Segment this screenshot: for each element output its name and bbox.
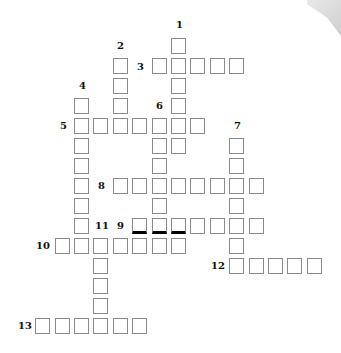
crossword-cell[interactable] — [74, 318, 89, 334]
crossword-cell[interactable] — [93, 258, 108, 274]
clue-number-10: 10 — [36, 241, 50, 251]
crossword-cell[interactable] — [55, 318, 70, 334]
crossword-cell[interactable] — [113, 58, 128, 74]
crossword-cell[interactable] — [229, 138, 244, 154]
crossword-cell[interactable] — [152, 198, 167, 214]
crossword-cell[interactable] — [210, 58, 225, 74]
crossword-cell[interactable] — [93, 298, 108, 314]
clue-number-7: 7 — [234, 121, 241, 131]
crossword-cell[interactable] — [229, 58, 244, 74]
crossword-cell[interactable] — [171, 218, 186, 234]
clue-number-3: 3 — [137, 62, 144, 72]
crossword-cell[interactable] — [74, 138, 89, 154]
crossword-cell[interactable] — [210, 178, 225, 194]
crossword-cell[interactable] — [229, 198, 244, 214]
crossword-cell[interactable] — [74, 98, 89, 114]
crossword-cell[interactable] — [229, 238, 244, 254]
crossword-cell[interactable] — [132, 318, 147, 334]
crossword-cell[interactable] — [152, 218, 167, 234]
crossword-cell[interactable] — [74, 238, 89, 254]
clue-number-6: 6 — [156, 101, 163, 111]
crossword-cell[interactable] — [152, 58, 167, 74]
crossword-cell[interactable] — [113, 178, 128, 194]
crossword-cell[interactable] — [210, 218, 225, 234]
crossword-cell[interactable] — [171, 38, 186, 54]
clue-number-12: 12 — [211, 261, 225, 271]
crossword-cell[interactable] — [35, 318, 50, 334]
clue-number-5: 5 — [60, 121, 67, 131]
clue-number-2: 2 — [117, 41, 124, 51]
crossword-cell[interactable] — [171, 118, 186, 134]
crossword-cell[interactable] — [190, 118, 205, 134]
crossword-cell[interactable] — [190, 218, 205, 234]
clue-number-11: 11 — [95, 221, 109, 231]
crossword-cell[interactable] — [307, 258, 322, 274]
crossword-grid: 12345678910111213 — [0, 0, 341, 353]
crossword-cell[interactable] — [93, 318, 108, 334]
crossword-cell[interactable] — [74, 198, 89, 214]
crossword-cell[interactable] — [93, 278, 108, 294]
clue-number-4: 4 — [79, 81, 86, 91]
crossword-cell[interactable] — [229, 258, 244, 274]
crossword-cell[interactable] — [268, 258, 283, 274]
crossword-cell[interactable] — [113, 238, 128, 254]
crossword-cell[interactable] — [74, 158, 89, 174]
crossword-cell[interactable] — [229, 178, 244, 194]
crossword-cell[interactable] — [171, 138, 186, 154]
crossword-cell[interactable] — [55, 238, 70, 254]
crossword-cell[interactable] — [249, 218, 264, 234]
crossword-cell[interactable] — [249, 258, 264, 274]
crossword-cell[interactable] — [152, 238, 167, 254]
crossword-cell[interactable] — [132, 178, 147, 194]
crossword-cell[interactable] — [249, 178, 264, 194]
crossword-cell[interactable] — [190, 58, 205, 74]
crossword-cell[interactable] — [93, 238, 108, 254]
crossword-cell[interactable] — [171, 178, 186, 194]
crossword-cell[interactable] — [113, 98, 128, 114]
clue-number-1: 1 — [176, 20, 183, 30]
crossword-cell[interactable] — [229, 158, 244, 174]
crossword-cell[interactable] — [93, 118, 108, 134]
crossword-cell[interactable] — [152, 178, 167, 194]
clue-number-8: 8 — [98, 181, 105, 191]
crossword-cell[interactable] — [190, 178, 205, 194]
crossword-cell[interactable] — [287, 258, 302, 274]
crossword-cell[interactable] — [171, 238, 186, 254]
crossword-cell[interactable] — [171, 98, 186, 114]
crossword-cell[interactable] — [113, 78, 128, 94]
crossword-cell[interactable] — [171, 58, 186, 74]
crossword-cell[interactable] — [152, 138, 167, 154]
crossword-cell[interactable] — [74, 118, 89, 134]
crossword-cell[interactable] — [171, 78, 186, 94]
clue-number-13: 13 — [18, 321, 32, 331]
crossword-cell[interactable] — [229, 218, 244, 234]
crossword-cell[interactable] — [132, 118, 147, 134]
crossword-cell[interactable] — [152, 158, 167, 174]
crossword-cell[interactable] — [113, 318, 128, 334]
crossword-cell[interactable] — [74, 218, 89, 234]
crossword-cell[interactable] — [152, 118, 167, 134]
crossword-cell[interactable] — [74, 178, 89, 194]
crossword-cell[interactable] — [132, 238, 147, 254]
crossword-cell[interactable] — [132, 218, 147, 234]
clue-number-9: 9 — [117, 221, 124, 231]
crossword-cell[interactable] — [113, 118, 128, 134]
